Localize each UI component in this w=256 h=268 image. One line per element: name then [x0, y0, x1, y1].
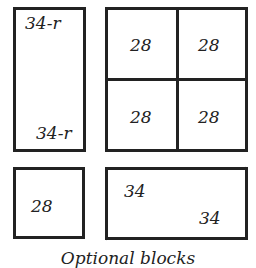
- grid-cell-label: 28: [130, 109, 152, 126]
- wide-rect-block: [105, 167, 248, 240]
- figure-caption: Optional blocks: [0, 248, 256, 268]
- tall-rect-label-top: 34-r: [25, 15, 61, 32]
- wide-rect-label-bottom: 34: [199, 210, 221, 227]
- grid-cell-label: 28: [198, 37, 220, 54]
- grid-cell-label: 28: [130, 37, 152, 54]
- small-square-label: 28: [31, 198, 53, 215]
- tall-rect-label-bottom: 34-r: [36, 125, 72, 142]
- grid-horizontal-divider: [105, 78, 248, 81]
- wide-rect-label-top: 34: [124, 183, 146, 200]
- grid-cell-label: 28: [198, 109, 220, 126]
